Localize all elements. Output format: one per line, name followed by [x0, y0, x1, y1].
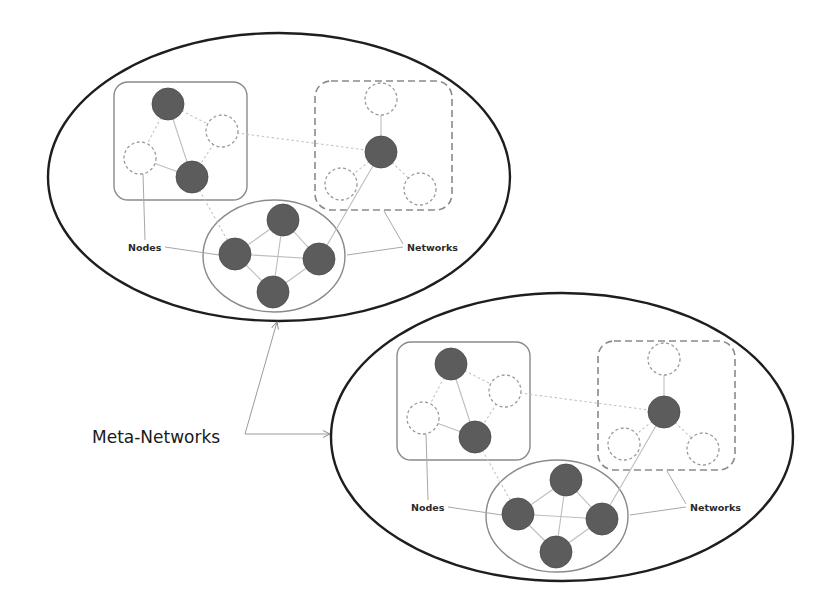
networks-label: Networks: [690, 502, 741, 513]
meta-network-arrows: [245, 322, 330, 434]
node-inactive: [124, 142, 156, 174]
label-leader-line: [630, 507, 686, 515]
node-inactive: [687, 433, 719, 465]
meta-arrow: [245, 322, 277, 434]
node-active: [550, 464, 582, 496]
edge: [319, 152, 381, 259]
edge: [602, 412, 664, 519]
node-active: [152, 88, 184, 120]
node-inactive: [608, 428, 640, 460]
nodes-label: Nodes: [128, 242, 162, 253]
node-active: [267, 204, 299, 236]
node-active: [435, 348, 467, 380]
node-active: [257, 276, 289, 308]
label-leader-line: [143, 174, 145, 240]
node-active: [459, 421, 491, 453]
node-active: [303, 243, 335, 275]
node-inactive: [206, 115, 238, 147]
node-active: [540, 536, 572, 568]
meta-networks-label: Meta-Networks: [92, 427, 220, 447]
label-leader-line: [426, 434, 428, 500]
node-inactive: [325, 168, 357, 200]
label-leader-line: [384, 211, 403, 244]
node-active: [502, 498, 534, 530]
node-active: [176, 161, 208, 193]
meta-network-lower: NodesNetworks: [331, 293, 793, 581]
meta-network-diagram: NodesNetworksNodesNetworks Meta-Networks: [0, 0, 833, 612]
networks-label: Networks: [407, 242, 458, 253]
node-inactive: [407, 402, 439, 434]
edge: [222, 131, 381, 152]
node-active: [219, 238, 251, 270]
node-inactive: [648, 343, 680, 375]
node-inactive: [489, 375, 521, 407]
node-active: [586, 503, 618, 535]
label-leader-line: [667, 471, 686, 504]
label-leader-line: [448, 507, 502, 515]
edge: [505, 391, 664, 412]
node-inactive: [404, 173, 436, 205]
node-active: [365, 136, 397, 168]
nodes-label: Nodes: [411, 502, 445, 513]
meta-network-upper: NodesNetworks: [48, 33, 510, 321]
label-leader-line: [347, 247, 403, 255]
label-leader-line: [165, 247, 219, 255]
node-active: [648, 396, 680, 428]
node-inactive: [365, 83, 397, 115]
